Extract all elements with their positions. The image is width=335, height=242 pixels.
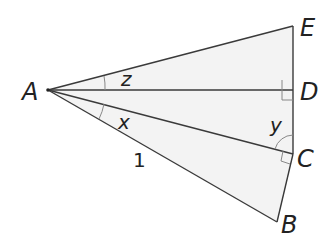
label-b: B [281,211,297,239]
vertex-a-dot [46,88,50,92]
label-a: A [20,78,38,106]
label-e: E [300,14,316,42]
shaded-region [48,26,293,222]
label-c: C [297,145,314,173]
angle-label-z: z [120,67,132,91]
geometry-diagram: A E D C B z x y 1 [0,0,335,242]
side-label-ab: 1 [133,148,146,172]
angle-label-y: y [269,113,283,137]
label-d: D [300,78,318,106]
angle-label-x: x [117,110,130,134]
